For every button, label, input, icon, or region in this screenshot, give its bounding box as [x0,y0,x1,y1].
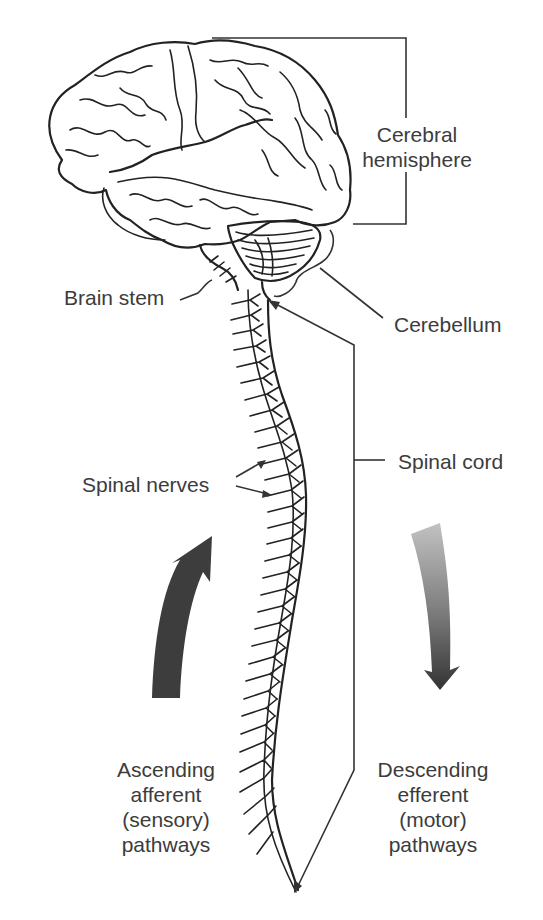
label-spinal-cord: Spinal cord [398,449,503,474]
cerebral-hemisphere-bracket [212,38,406,118]
label-cerebral-hemisphere-line1: Cerebral [357,122,477,147]
label-ascending-pathways: Ascending afferent (sensory) pathways [104,757,228,857]
cerebral-hemisphere-bracket-lower [353,172,406,224]
label-brain-stem: Brain stem [64,285,164,310]
label-cerebral-hemisphere: Cerebral hemisphere [357,122,477,172]
label-ascending-line3: (sensory) [104,807,228,832]
label-cerebral-hemisphere-line2: hemisphere [357,147,477,172]
cerebral-hemisphere-drawing [49,40,350,247]
cerebellum-leader [274,230,383,318]
label-spinal-nerves: Spinal nerves [82,472,209,497]
label-descending-line3: (motor) [368,807,498,832]
cerebellum-drawing [228,221,320,281]
arrow-down-icon [411,523,460,690]
arrow-up-icon [152,536,212,698]
label-descending-line4: pathways [368,832,498,857]
spinal-cord-drawing [231,290,306,892]
label-ascending-line1: Ascending [104,757,228,782]
label-descending-pathways: Descending efferent (motor) pathways [368,757,498,857]
label-ascending-line2: afferent [104,782,228,807]
label-descending-line2: efferent [368,782,498,807]
brain-stem-leader [180,280,212,300]
label-ascending-line4: pathways [104,832,228,857]
label-descending-line1: Descending [368,757,498,782]
label-cerebellum: Cerebellum [394,312,501,337]
